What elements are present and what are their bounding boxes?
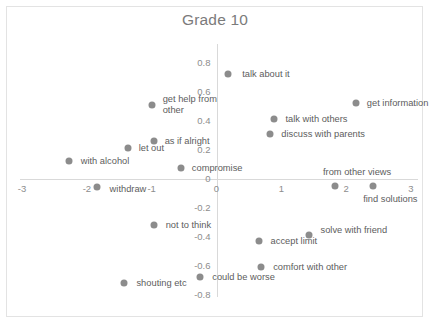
- data-point[interactable]: [150, 221, 157, 228]
- data-point[interactable]: [148, 101, 155, 108]
- x-tick--2: -2: [67, 183, 107, 194]
- data-point[interactable]: [267, 130, 274, 137]
- data-point[interactable]: [258, 263, 265, 270]
- data-point[interactable]: [121, 279, 128, 286]
- data-point[interactable]: [332, 182, 339, 189]
- data-point[interactable]: [65, 158, 72, 165]
- chart-title: Grade 10: [0, 11, 430, 29]
- data-point-label: talk with others: [286, 114, 348, 125]
- y-tick-0.8: 0.8: [169, 57, 211, 68]
- y-tick--0.6: -0.6: [169, 260, 211, 271]
- data-point-label: could be worse: [212, 272, 275, 283]
- data-point[interactable]: [197, 274, 204, 281]
- y-tick--0.2: -0.2: [169, 202, 211, 213]
- x-tick-1: 1: [261, 183, 301, 194]
- data-point-label: find solutions: [363, 193, 417, 204]
- data-point-label: withdraw: [110, 184, 147, 195]
- y-tick-0: 0: [169, 173, 211, 184]
- x-tick-0: 0: [197, 183, 237, 194]
- data-point-label: with alcohol: [81, 156, 130, 167]
- y-tick--0.4: -0.4: [169, 231, 211, 242]
- data-point-label: discuss with parents: [281, 128, 365, 139]
- data-point-label: talk about it: [242, 69, 290, 80]
- data-point-label: solve with friend: [321, 225, 388, 236]
- scatter-chart: Grade 10 -3-2-10123 0.80.60.40.20-0.2-0.…: [0, 0, 430, 328]
- data-point-label: compromise: [192, 163, 243, 174]
- data-point[interactable]: [177, 165, 184, 172]
- data-point[interactable]: [270, 116, 277, 123]
- data-point[interactable]: [93, 184, 100, 191]
- data-point-label: not to think: [166, 219, 211, 230]
- x-axis-line: [20, 179, 418, 180]
- y-tick--0.8: -0.8: [169, 289, 211, 300]
- data-point-label: get help from other: [163, 94, 217, 116]
- data-point-label: shouting etc: [136, 277, 186, 288]
- data-point-label: as if alright: [165, 135, 210, 146]
- data-point-label: from other views: [323, 166, 391, 177]
- data-point[interactable]: [124, 145, 131, 152]
- data-point[interactable]: [255, 237, 262, 244]
- data-point[interactable]: [370, 182, 377, 189]
- data-point[interactable]: [352, 100, 359, 107]
- x-tick-3: 3: [391, 183, 430, 194]
- data-point-label: get information: [367, 98, 429, 109]
- data-point-label: let out: [139, 143, 164, 154]
- data-point[interactable]: [225, 71, 232, 78]
- y-tick-0.4: 0.4: [169, 115, 211, 126]
- data-point-label: comfort with other: [273, 261, 347, 272]
- data-point-label: accept limit: [271, 235, 318, 246]
- x-tick--3: -3: [2, 183, 42, 194]
